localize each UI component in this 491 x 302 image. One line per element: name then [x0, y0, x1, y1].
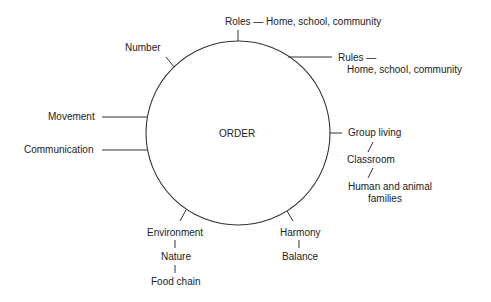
node-classroom: Classroom: [347, 154, 395, 166]
connector-classroom: [368, 142, 373, 152]
node-food-chain: Food chain: [151, 276, 200, 288]
node-communication: Communication: [24, 144, 93, 156]
node-balance: Balance: [282, 251, 318, 263]
center-label: ORDER: [219, 128, 255, 140]
connector-harmony: [287, 211, 293, 221]
node-human-families-line1: Human and animal: [348, 181, 432, 193]
node-harmony: Harmony: [280, 227, 321, 239]
connector-number: [166, 57, 174, 67]
node-rules-line2: Home, school, community: [347, 64, 462, 76]
connector-environment: [180, 210, 186, 221]
node-nature: Nature: [161, 251, 191, 263]
node-human-families-line2: families: [368, 193, 402, 205]
node-group-living: Group living: [348, 127, 401, 139]
connector-human-families: [368, 168, 373, 178]
node-movement: Movement: [48, 111, 95, 123]
node-rules-line1: Rules —: [338, 52, 376, 64]
node-roles: Roles — Home, school, community: [225, 16, 381, 28]
node-environment: Environment: [147, 227, 203, 239]
node-number: Number: [125, 42, 161, 54]
